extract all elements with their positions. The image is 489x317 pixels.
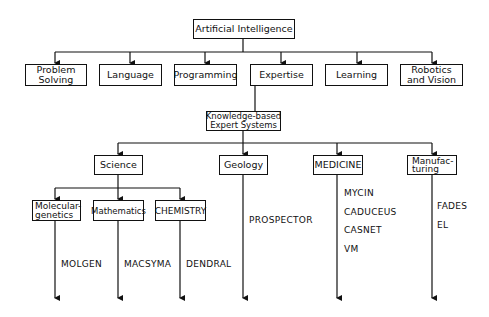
node-medicine: MEDICINE xyxy=(313,155,363,175)
node-chemistry: CHEMISTRY xyxy=(155,200,206,221)
node-robotics-and-vision: Robotics and Vision xyxy=(400,64,463,86)
node-manufacturing: Manufac- turing xyxy=(407,155,457,175)
node-learning: Learning xyxy=(325,64,388,86)
system-prospector: PROSPECTOR xyxy=(249,211,313,230)
node-science: Science xyxy=(94,155,143,175)
node-language: Language xyxy=(99,64,162,86)
system-macsyma: MACSYMA xyxy=(124,255,171,274)
node-programming: Programming xyxy=(174,64,237,86)
system-molgen: MOLGEN xyxy=(61,255,102,274)
node-knowledge-based-expert-systems: Knowledge-based Expert Systems xyxy=(206,111,281,131)
node-geology: Geology xyxy=(219,155,268,175)
node-problem-solving: Problem Solving xyxy=(25,64,87,86)
system-dendral: DENDRAL xyxy=(186,255,231,274)
node-expertise: Expertise xyxy=(250,64,313,86)
systems-manufacturing-list: FADES EL xyxy=(437,197,467,234)
node-mathematics: Mathematics xyxy=(93,200,144,221)
systems-medicine-list: MYCIN CADUCEUS CASNET VM xyxy=(344,184,397,258)
node-artificial-intelligence: Artificial Intelligence xyxy=(193,19,295,39)
node-molecular-genetics: Molecular- genetics xyxy=(32,200,81,221)
